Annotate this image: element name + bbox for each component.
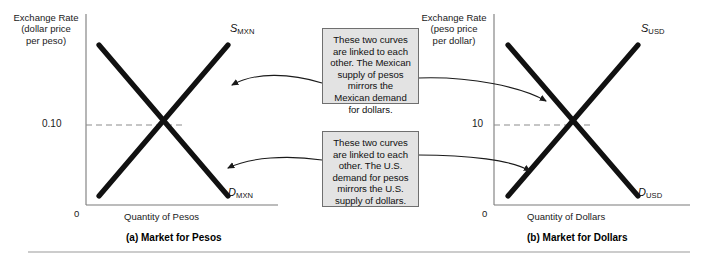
arrow-lower-left: [228, 157, 322, 168]
left-panel-origin-label: 0: [74, 208, 79, 219]
arrow-lower-right: [418, 155, 530, 171]
demand-curve-usd-subscript: USD: [646, 191, 662, 200]
left-panel-caption: (a) Market for Pesos: [126, 232, 222, 243]
arrow-upper-left: [232, 75, 322, 85]
supply-curve-usd-label: SUSD: [641, 22, 665, 34]
right-panel-caption: (b) Market for Dollars: [527, 232, 628, 243]
arrow-upper-right: [418, 78, 546, 101]
demand-curve-usd-letter: D: [638, 186, 646, 198]
supply-curve-usd-subscript: USD: [648, 27, 664, 36]
demand-curve-mxn-label: DMXN: [228, 186, 253, 198]
supply-curve-mxn-subscript: MXN: [237, 27, 254, 36]
right-panel-y-axis-label: Exchange Rate (peso price per dollar): [416, 12, 492, 46]
demand-curve-mxn-letter: D: [228, 186, 236, 198]
left-panel-tick-value: 0.10: [42, 118, 61, 129]
currency-markets-figure: Exchange Rate (dollar price per peso) 0.…: [0, 0, 711, 261]
lower-callout-box: These two curves are linked to each othe…: [322, 131, 419, 207]
right-panel-tick-value: 10: [472, 118, 483, 129]
supply-curve-mxn-label: SMXN: [230, 22, 255, 34]
demand-curve-usd-label: DUSD: [638, 186, 662, 198]
left-panel-x-axis-label: Quantity of Pesos: [124, 211, 199, 222]
upper-callout-box: These two curves are linked to each othe…: [322, 28, 419, 104]
left-panel-y-axis-label: Exchange Rate (dollar price per peso): [8, 12, 84, 46]
right-panel-x-axis-label: Quantity of Dollars: [527, 211, 605, 222]
right-panel-origin-label: 0: [482, 208, 487, 219]
demand-curve-mxn-subscript: MXN: [236, 191, 253, 200]
